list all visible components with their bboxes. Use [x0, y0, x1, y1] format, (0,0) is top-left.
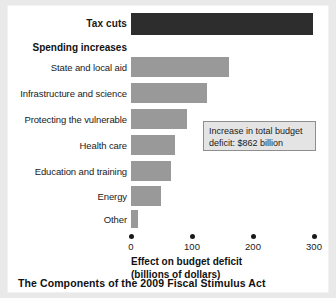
bar-label-infrastructure-and-science: Infrastructure and science [20, 89, 127, 99]
group-heading-spending-increases: Spending increases [33, 43, 127, 53]
bar-protecting-the-vulnerable [131, 109, 187, 129]
figure-caption: The Components of the 2009 Fiscal Stimul… [18, 277, 266, 289]
x-tick-label-0: 0 [111, 242, 151, 252]
annotation-line-2: deficit: $862 billion [209, 137, 310, 149]
x-tick-dot-100 [190, 234, 195, 239]
bar-label-protecting-the-vulnerable: Protecting the vulnerable [24, 115, 127, 125]
bar-health-care [131, 135, 175, 155]
bar-energy [131, 186, 161, 206]
x-tick-label-200: 200 [233, 242, 273, 252]
x-axis-title-line-1: Effect on budget deficit [131, 256, 242, 269]
figure-screenshot: Tax cuts Spending increases State and lo… [0, 0, 336, 298]
annotation-total-deficit-callout: Increase in total budget deficit: $862 b… [203, 121, 316, 151]
bar-label-energy: Energy [97, 192, 127, 202]
bar-label-health-care: Health care [80, 141, 127, 151]
bar-label-other: Other [104, 215, 127, 225]
bar-other [131, 210, 138, 228]
annotation-line-1: Increase in total budget [209, 125, 310, 137]
bar-education-and-training [131, 161, 171, 181]
bar-label-tax-cuts: Tax cuts [86, 19, 127, 29]
bar-state-and-local-aid [131, 57, 229, 77]
x-tick-dot-300 [312, 234, 317, 239]
bar-infrastructure-and-science [131, 83, 207, 103]
chart-plot-area: Tax cuts Spending increases State and lo… [0, 0, 336, 298]
x-tick-dot-200 [251, 234, 256, 239]
bar-label-education-and-training: Education and training [35, 167, 127, 177]
x-tick-label-100: 100 [172, 242, 212, 252]
bar-label-state-and-local-aid: State and local aid [51, 63, 127, 73]
bar-tax-cuts [131, 13, 313, 35]
x-tick-label-300: 300 [294, 242, 334, 252]
x-tick-dot-0 [129, 234, 134, 239]
